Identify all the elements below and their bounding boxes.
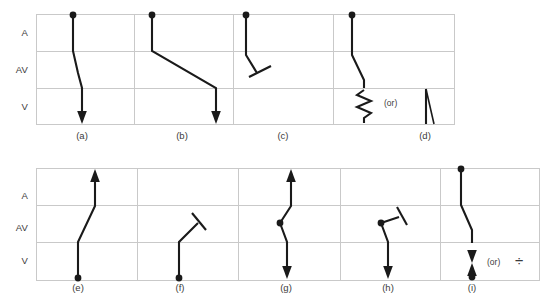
trace-panel-a xyxy=(70,12,87,124)
origin-dot-f xyxy=(176,275,183,282)
trace-panel-d-alt xyxy=(426,89,434,124)
caption-b: (b) xyxy=(162,131,202,141)
arrowhead-a xyxy=(77,111,87,124)
caption-e: (e) xyxy=(58,283,98,293)
origin-dot-h xyxy=(378,220,385,227)
trace-panel-i xyxy=(458,166,477,281)
trace-panel-g xyxy=(277,169,296,279)
trace-panel-b xyxy=(149,12,221,124)
arrowhead-h-down xyxy=(383,266,393,279)
caption-h: (h) xyxy=(368,283,408,293)
caption-c: (c) xyxy=(263,131,303,141)
top-ladder-grid xyxy=(0,0,553,150)
origin-dot-a xyxy=(70,12,77,19)
or-note-bottom: (or) xyxy=(487,258,500,267)
origin-dot-c xyxy=(243,12,250,19)
caption-i: (i) xyxy=(452,283,492,293)
arrowhead-e xyxy=(90,169,100,182)
caption-f: (f) xyxy=(160,283,200,293)
origin-dot-e xyxy=(75,275,82,282)
arrowhead-g-up xyxy=(286,169,296,182)
divide-symbol-i: ÷ xyxy=(515,253,523,268)
trace-panel-d xyxy=(349,12,371,123)
trace-panel-c xyxy=(243,12,271,77)
arrowhead-i-down xyxy=(467,250,477,263)
origin-dot-i-top xyxy=(458,166,465,173)
block-bar-c xyxy=(249,66,271,77)
trace-panel-e xyxy=(75,169,100,281)
origin-dot-b xyxy=(149,12,156,19)
zigzag-slow-conduction-d xyxy=(357,90,371,123)
trace-panel-f xyxy=(176,213,206,281)
block-bar-h xyxy=(397,207,407,225)
origin-dot-d xyxy=(349,12,356,19)
origin-dot-g xyxy=(277,220,284,227)
arrowhead-b xyxy=(211,111,221,124)
or-note-top: (or) xyxy=(384,99,397,108)
ladder-diagram-figure: A AV V xyxy=(0,0,553,304)
caption-d: (d) xyxy=(405,131,445,141)
origin-dot-i-bottom xyxy=(469,274,476,281)
caption-g: (g) xyxy=(266,283,306,293)
caption-a: (a) xyxy=(62,131,102,141)
arrowhead-g-down xyxy=(282,266,292,279)
